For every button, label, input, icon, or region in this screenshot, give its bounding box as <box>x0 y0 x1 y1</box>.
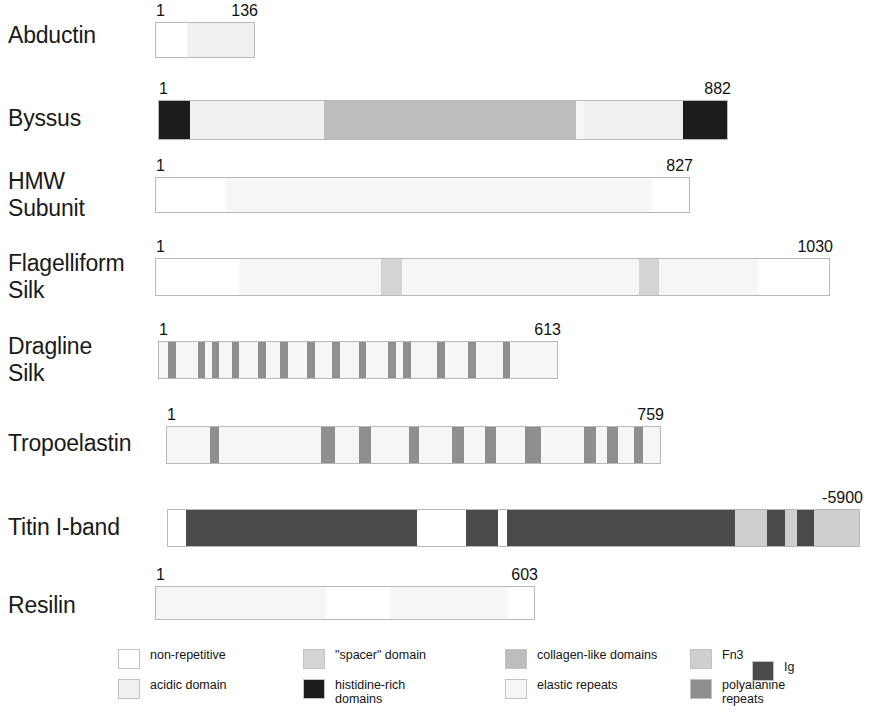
end-position-label-titin-i-band: -5900 <box>822 490 863 506</box>
segment-non-repetitive <box>156 178 226 212</box>
segment-fn3 <box>735 510 767 546</box>
row-label-byssus: Byssus <box>8 105 81 132</box>
legend-label-non-repetitive: non-repetitive <box>150 648 320 662</box>
segment-elastic-repeats <box>335 427 359 463</box>
protein-domain-diagram: Abductin1136Byssus1882HMW Subunit1827Fla… <box>0 0 873 716</box>
segment-polyalanine-repeats <box>607 427 617 463</box>
end-position-label-flagelliform-silk: 1030 <box>797 239 833 255</box>
legend-swatch-histidine-rich-domains <box>303 679 325 699</box>
segment-elastic-repeats <box>596 427 607 463</box>
legend-item-elastic-repeats: elastic repeats <box>505 678 712 699</box>
start-position-label-byssus: 1 <box>159 81 168 97</box>
segment-polyalanine-repeats <box>634 427 643 463</box>
start-position-label-tropoelastin: 1 <box>167 407 176 423</box>
segment-polyalanine-repeats <box>485 427 496 463</box>
segment-elastic-repeats <box>618 427 634 463</box>
legend-label-acidic-domain: acidic domain <box>150 678 320 692</box>
row-label-tropoelastin: Tropoelastin <box>8 430 131 457</box>
legend-item-collagen-like-domains: collagen-like domains <box>505 648 712 669</box>
segment-polyalanine-repeats <box>258 342 266 378</box>
segment-elastic-repeats <box>643 427 660 463</box>
segment-polyalanine-repeats <box>525 427 541 463</box>
segment-ig <box>466 510 498 546</box>
domain-bar-dragline-silk <box>158 341 558 379</box>
segment-polyalanine-repeats <box>210 427 219 463</box>
segment-elastic-repeats <box>496 427 524 463</box>
segment-elastic-repeats <box>445 342 469 378</box>
segment-elastic-repeats <box>340 342 359 378</box>
segment-polyalanine-repeats <box>307 342 315 378</box>
end-position-label-tropoelastin: 759 <box>637 407 664 423</box>
legend-label-spacer-domain: "spacer" domain <box>335 648 510 662</box>
legend-item-histidine-rich-domains: histidine-rich domains <box>303 678 510 706</box>
segment-elastic-repeats <box>510 342 556 378</box>
segment-ig <box>767 510 785 546</box>
segment-elastic-repeats <box>176 342 198 378</box>
segment-ig <box>797 510 814 546</box>
segment-non-repetitive <box>758 259 829 295</box>
end-position-label-resilin: 603 <box>511 567 538 583</box>
legend-item-acidic-domain: acidic domain <box>118 678 320 699</box>
start-position-label-dragline-silk: 1 <box>159 322 168 338</box>
segment-polyalanine-repeats <box>321 427 335 463</box>
legend-item-spacer-domain: "spacer" domain <box>303 648 510 669</box>
segment-ig <box>507 510 735 546</box>
domain-bar-byssus <box>158 100 728 140</box>
legend-swatch-acidic-domain <box>118 679 140 699</box>
segment-elastic-repeats <box>576 101 585 139</box>
legend-swatch-collagen-like-domains <box>505 649 527 669</box>
segment-polyalanine-repeats <box>359 427 371 463</box>
segment-elastic-repeats <box>226 178 652 212</box>
end-position-label-hmw-subunit: 827 <box>666 158 693 174</box>
segment-non-repetitive <box>417 510 465 546</box>
segment-elastic-repeats <box>411 342 437 378</box>
legend-label-elastic-repeats: elastic repeats <box>537 678 712 692</box>
legend-swatch-spacer-domain <box>303 649 325 669</box>
segment-polyalanine-repeats <box>332 342 340 378</box>
end-position-label-abductin: 136 <box>231 3 258 19</box>
segment-elastic-repeats <box>266 342 281 378</box>
segment-non-repetitive <box>652 178 689 212</box>
segment-non-repetitive <box>156 259 239 295</box>
row-label-abductin: Abductin <box>8 22 96 49</box>
segment-elastic-repeats <box>315 342 332 378</box>
start-position-label-resilin: 1 <box>156 567 165 583</box>
segment-elastic-repeats <box>219 342 231 378</box>
segment-polyalanine-repeats <box>212 342 220 378</box>
row-label-titin-i-band: Titin I-band <box>8 514 120 541</box>
segment-polyalanine-repeats <box>437 342 445 378</box>
segment-spacer-domain <box>381 259 402 295</box>
legend-label-ig: Ig <box>784 660 844 674</box>
segment-polyalanine-repeats <box>452 427 464 463</box>
segment-polyalanine-repeats <box>503 342 511 378</box>
row-label-flagelliform-silk: Flagelliform Silk <box>8 250 124 304</box>
segment-non-repetitive <box>168 510 186 546</box>
segment-elastic-repeats <box>366 342 388 378</box>
segment-elastic-repeats <box>239 342 258 378</box>
segment-elastic-repeats <box>464 427 485 463</box>
legend-label-collagen-like-domains: collagen-like domains <box>537 648 712 662</box>
row-label-dragline-silk: Dragline Silk <box>8 333 92 387</box>
segment-elastic-repeats <box>419 427 452 463</box>
segment-spacer-domain <box>639 259 660 295</box>
segment-elastic-repeats <box>659 259 758 295</box>
segment-non-repetitive <box>326 587 390 619</box>
segment-polyalanine-repeats <box>280 342 288 378</box>
segment-elastic-repeats <box>156 587 326 619</box>
end-position-label-byssus: 882 <box>704 81 731 97</box>
segment-polyalanine-repeats <box>403 342 411 378</box>
segment-collagen-like <box>324 101 575 139</box>
domain-bar-abductin <box>155 22 255 58</box>
segment-polyalanine-repeats <box>584 427 596 463</box>
segment-polyalanine-repeats <box>409 427 418 463</box>
domain-bar-flagelliform-silk <box>155 258 830 296</box>
segment-non-repetitive <box>498 510 508 546</box>
segment-non-repetitive <box>156 23 187 57</box>
segment-fn3 <box>814 510 859 546</box>
legend-item-ig: Ig <box>752 660 844 681</box>
legend-label-histidine-rich-domains: histidine-rich domains <box>335 678 510 706</box>
end-position-label-dragline-silk: 613 <box>534 322 561 338</box>
segment-polyalanine-repeats <box>168 342 176 378</box>
segment-elastic-repeats <box>476 342 503 378</box>
segment-elastic-repeats <box>288 342 307 378</box>
